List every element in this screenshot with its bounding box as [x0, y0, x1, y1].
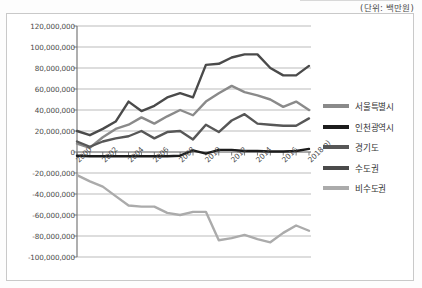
x-axis-tick-label: 2002 [100, 145, 119, 164]
x-axis-tick-label: 2000 [74, 145, 93, 164]
chart-page: (단위: 백만원) 120,000,000100,000,00080,000,0… [0, 0, 422, 288]
x-axis-tick-label: 2014 [254, 145, 273, 164]
legend-swatch-icon [323, 166, 349, 170]
chart-legend: 서울특별시인천광역시경기도수도권비수도권 [323, 100, 415, 194]
legend-swatch-icon [323, 186, 349, 190]
x-axis-tick-label: 2016 [280, 145, 299, 164]
legend-item-인천광역시[interactable]: 인천광역시 [323, 121, 415, 133]
legend-swatch-icon [323, 104, 349, 108]
legend-label: 비수도권 [355, 182, 386, 194]
legend-item-서울특별시[interactable]: 서울특별시 [323, 100, 415, 112]
legend-item-경기도[interactable]: 경기도 [323, 141, 415, 153]
x-axis-tick-label: 2006 [151, 145, 170, 164]
chart-frame: 120,000,000100,000,00080,000,00060,000,0… [6, 13, 414, 281]
legend-label: 수도권 [355, 162, 378, 174]
x-axis-tick-label: 2004 [126, 145, 145, 164]
legend-swatch-icon [323, 145, 349, 149]
legend-label: 경기도 [355, 141, 378, 153]
legend-label: 인천광역시 [355, 121, 394, 133]
x-axis-tick-label: 2008 [177, 145, 196, 164]
legend-item-비수도권[interactable]: 비수도권 [323, 182, 415, 194]
unit-caption: (단위: 백만원) [360, 1, 414, 13]
legend-swatch-icon [323, 125, 349, 129]
x-axis-tick-label: 2012 [229, 145, 248, 164]
legend-item-수도권[interactable]: 수도권 [323, 162, 415, 174]
legend-label: 서울특별시 [355, 100, 394, 112]
x-axis-tick-label: 2010 [203, 145, 222, 164]
